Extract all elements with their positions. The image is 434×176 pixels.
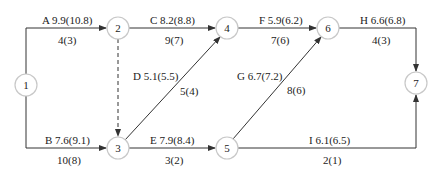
node-6: 6: [317, 17, 339, 39]
edge-d-cost-label: D 5.1(5.5): [133, 70, 179, 83]
node-7-label: 7: [413, 77, 419, 89]
node-2: 2: [107, 17, 129, 39]
node-2-label: 2: [115, 22, 121, 34]
node-5-label: 5: [224, 142, 230, 154]
edge-i-duration-label: 2(1): [323, 154, 342, 167]
node-3-label: 3: [115, 142, 121, 154]
edge-d-duration-label: 5(4): [180, 85, 199, 98]
edge-h-cost-label: H 6.6(6.8): [360, 14, 406, 27]
edge-g-cost-label: G 6.7(7.2): [237, 70, 283, 83]
edge-g: [233, 37, 321, 139]
edge-g-duration-label: 8(6): [287, 84, 306, 97]
network-diagram: A 9.9(10.8) 4(3) B 7.6(9.1) 10(8) C 8.2(…: [0, 0, 434, 176]
node-7: 7: [405, 72, 427, 94]
edge-d: [125, 37, 220, 140]
edge-h-duration-label: 4(3): [372, 34, 391, 47]
edge-e-cost-label: E 7.9(8.4): [150, 134, 195, 147]
node-4-label: 4: [224, 22, 230, 34]
node-3: 3: [107, 137, 129, 159]
edge-c-duration-label: 9(7): [165, 34, 184, 47]
node-1: 1: [15, 74, 37, 96]
edge-f-cost-label: F 5.9(6.2): [259, 14, 303, 27]
node-4: 4: [216, 17, 238, 39]
edge-b-cost-label: B 7.6(9.1): [45, 134, 90, 147]
node-5: 5: [216, 137, 238, 159]
edge-a-duration-label: 4(3): [58, 34, 77, 47]
edge-b-duration-label: 10(8): [57, 154, 81, 167]
edge-c-cost-label: C 8.2(8.8): [150, 14, 195, 27]
edge-i-cost-label: I 6.1(6.5): [309, 134, 351, 147]
node-6-label: 6: [325, 22, 331, 34]
edge-f-duration-label: 7(6): [271, 34, 290, 47]
edge-a-cost-label: A 9.9(10.8): [42, 14, 93, 27]
edge-e-duration-label: 3(2): [165, 154, 184, 167]
node-1-label: 1: [23, 79, 29, 91]
